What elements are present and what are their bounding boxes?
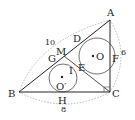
label-m: M — [56, 46, 66, 57]
geometry-figure: A B C D E F G H I M O O′ 10 6 8 — [0, 0, 135, 120]
label-d: D — [73, 33, 81, 44]
label-f: F — [112, 53, 119, 64]
center-o — [92, 55, 94, 57]
label-g: G — [48, 53, 56, 64]
label-o: O — [96, 51, 104, 62]
center-o-prime — [61, 76, 63, 78]
label-b: B — [8, 88, 15, 99]
triangle-diagram: A B C D E F G H I M O O′ 10 6 8 — [0, 0, 135, 120]
label-length-ab: 10 — [45, 38, 55, 47]
label-o-prime: O′ — [56, 81, 67, 92]
label-e: E — [78, 62, 85, 73]
label-c: C — [112, 88, 120, 99]
label-a: A — [106, 7, 115, 18]
label-i: I — [69, 65, 73, 76]
label-length-bc: 8 — [61, 105, 66, 114]
label-length-ac: 6 — [121, 48, 126, 57]
